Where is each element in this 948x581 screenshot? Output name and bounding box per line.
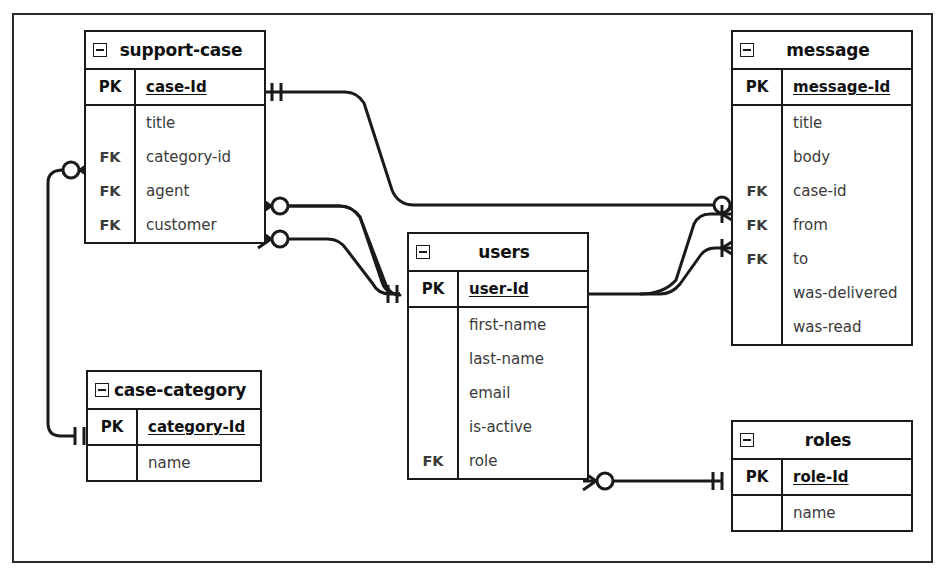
entity-title: roles xyxy=(793,430,852,450)
entity-attr-section: first-name last-name email is-active FK … xyxy=(409,308,587,478)
entity-roles[interactable]: roles PK role-Id name xyxy=(731,420,913,532)
key-label: FK xyxy=(733,251,781,267)
entity-row[interactable]: title xyxy=(733,106,911,140)
attribute-label: from xyxy=(781,216,828,234)
er-diagram-canvas: support-case PK case-Id title FK categor… xyxy=(0,0,948,581)
key-label: PK xyxy=(409,280,457,298)
attribute-label: title xyxy=(781,114,822,132)
entity-row[interactable]: was-read xyxy=(733,310,911,344)
entity-pk-section: PK user-Id xyxy=(409,272,587,308)
key-label: PK xyxy=(733,468,781,486)
entity-row-pk[interactable]: PK role-Id xyxy=(733,460,911,494)
entity-title: users xyxy=(466,242,529,262)
entity-row[interactable]: title xyxy=(86,106,264,140)
entity-row[interactable]: FK to xyxy=(733,242,911,276)
attribute-label: message-Id xyxy=(781,78,890,96)
attribute-label: agent xyxy=(134,182,189,200)
collapse-minus-icon[interactable] xyxy=(93,43,107,57)
entity-row[interactable]: FK role xyxy=(409,444,587,478)
entity-pk-section: PK role-Id xyxy=(733,460,911,496)
entity-header-message: message xyxy=(733,32,911,70)
entity-row[interactable]: last-name xyxy=(409,342,587,376)
entity-row[interactable]: FK agent xyxy=(86,174,264,208)
attribute-label: title xyxy=(134,114,175,132)
key-label: FK xyxy=(733,183,781,199)
attribute-label: body xyxy=(781,148,830,166)
entity-row-pk[interactable]: PK category-Id xyxy=(88,410,260,444)
attribute-label: category-id xyxy=(134,148,231,166)
entity-row[interactable]: name xyxy=(733,496,911,530)
collapse-minus-icon[interactable] xyxy=(740,433,754,447)
entity-title: message xyxy=(774,40,869,60)
key-label: FK xyxy=(86,183,134,199)
entity-row[interactable]: FK customer xyxy=(86,208,264,242)
attribute-label: case-Id xyxy=(134,78,207,96)
key-label: FK xyxy=(409,453,457,469)
key-label: FK xyxy=(86,149,134,165)
entity-header-users: users xyxy=(409,234,587,272)
entity-row[interactable]: FK case-id xyxy=(733,174,911,208)
attribute-label: name xyxy=(136,454,191,472)
attribute-label: was-read xyxy=(781,318,861,336)
entity-title: case-category xyxy=(102,380,246,400)
key-label: PK xyxy=(88,418,136,436)
entity-title: support-case xyxy=(108,40,243,60)
attribute-label: email xyxy=(457,384,510,402)
entity-attr-section: title body FK case-id FK from FK to was-… xyxy=(733,106,911,344)
attribute-label: last-name xyxy=(457,350,544,368)
entity-row[interactable]: email xyxy=(409,376,587,410)
attribute-label: first-name xyxy=(457,316,546,334)
entity-users[interactable]: users PK user-Id first-name last-name em… xyxy=(407,232,589,480)
attribute-label: role xyxy=(457,452,497,470)
entity-attr-section: name xyxy=(733,496,911,530)
entity-case-category[interactable]: case-category PK category-Id name xyxy=(86,370,262,482)
entity-row-pk[interactable]: PK message-Id xyxy=(733,70,911,104)
key-label: FK xyxy=(733,217,781,233)
entity-pk-section: PK message-Id xyxy=(733,70,911,106)
attribute-label: name xyxy=(781,504,836,522)
entity-row[interactable]: name xyxy=(88,446,260,480)
entity-header-case-category: case-category xyxy=(88,372,260,410)
collapse-minus-icon[interactable] xyxy=(416,245,430,259)
attribute-label: case-id xyxy=(781,182,847,200)
entity-message[interactable]: message PK message-Id title body FK case… xyxy=(731,30,913,346)
entity-header-roles: roles xyxy=(733,422,911,460)
collapse-minus-icon[interactable] xyxy=(740,43,754,57)
attribute-label: is-active xyxy=(457,418,532,436)
entity-attr-section: title FK category-id FK agent FK custome… xyxy=(86,106,264,242)
key-label: FK xyxy=(86,217,134,233)
attribute-label: customer xyxy=(134,216,217,234)
attribute-label: user-Id xyxy=(457,280,529,298)
entity-row-pk[interactable]: PK case-Id xyxy=(86,70,264,104)
attribute-label: role-Id xyxy=(781,468,849,486)
collapse-minus-icon[interactable] xyxy=(95,383,109,397)
entity-pk-section: PK case-Id xyxy=(86,70,264,106)
entity-attr-section: name xyxy=(88,446,260,480)
entity-row[interactable]: first-name xyxy=(409,308,587,342)
key-label: PK xyxy=(86,78,134,96)
entity-pk-section: PK category-Id xyxy=(88,410,260,446)
entity-header-support-case: support-case xyxy=(86,32,264,70)
entity-row-pk[interactable]: PK user-Id xyxy=(409,272,587,306)
key-label: PK xyxy=(733,78,781,96)
entity-support-case[interactable]: support-case PK case-Id title FK categor… xyxy=(84,30,266,244)
entity-row[interactable]: body xyxy=(733,140,911,174)
entity-row[interactable]: FK category-id xyxy=(86,140,264,174)
attribute-label: category-Id xyxy=(136,418,245,436)
entity-row[interactable]: was-delivered xyxy=(733,276,911,310)
entity-row[interactable]: is-active xyxy=(409,410,587,444)
entity-row[interactable]: FK from xyxy=(733,208,911,242)
attribute-label: to xyxy=(781,250,808,268)
attribute-label: was-delivered xyxy=(781,284,897,302)
